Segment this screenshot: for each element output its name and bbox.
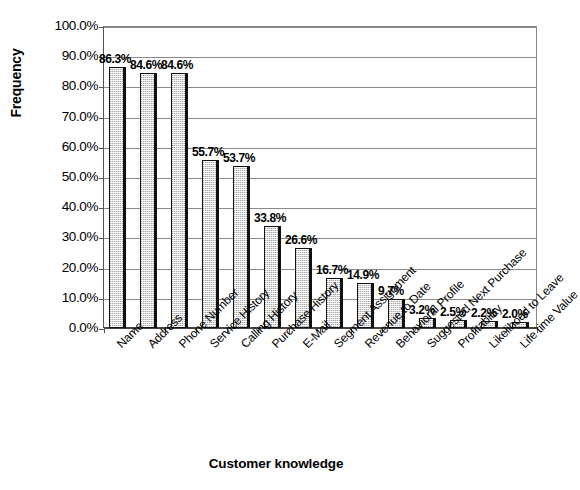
bar[interactable] bbox=[140, 73, 157, 328]
bar-value-label: 9.7% bbox=[378, 285, 404, 297]
y-axis-tick-label: 50.0% bbox=[40, 170, 98, 184]
y-axis-tick-labels: 0.0%10.0%20.0%30.0%40.0%50.0%60.0%70.0%8… bbox=[38, 0, 98, 490]
y-axis-tick-label: 0.0% bbox=[40, 321, 98, 335]
bar-value-label: 2.2% bbox=[471, 307, 497, 319]
bar-value-label: 53.7% bbox=[223, 152, 255, 164]
x-axis-title: Customer knowledge bbox=[0, 456, 552, 471]
bar-value-label: 16.7% bbox=[316, 264, 348, 276]
y-axis-tick-label: 20.0% bbox=[40, 261, 98, 275]
y-axis-tick-label: 90.0% bbox=[40, 49, 98, 63]
bar-slot bbox=[135, 27, 166, 328]
bar-value-label: 14.9% bbox=[347, 269, 379, 281]
y-axis-title: Frequency bbox=[8, 18, 24, 148]
bar-slot bbox=[104, 27, 135, 328]
bar-slot bbox=[228, 27, 259, 328]
bar-value-label: 84.6% bbox=[161, 59, 193, 71]
y-axis-tick-label: 30.0% bbox=[40, 230, 98, 244]
bar-value-label: 2.0% bbox=[502, 308, 528, 320]
bar-value-label: 55.7% bbox=[192, 146, 224, 158]
bar-slot bbox=[352, 27, 383, 328]
bar-slot bbox=[197, 27, 228, 328]
bar[interactable] bbox=[109, 67, 126, 328]
bar-value-label: 26.6% bbox=[285, 234, 317, 246]
bar-value-label: 84.6% bbox=[130, 59, 162, 71]
y-axis-tick-label: 10.0% bbox=[40, 291, 98, 305]
bar[interactable] bbox=[171, 73, 188, 328]
x-axis-tickmark bbox=[104, 328, 105, 333]
bar-slot bbox=[166, 27, 197, 328]
y-axis-tick-label: 80.0% bbox=[40, 79, 98, 93]
bar-slot bbox=[507, 27, 538, 328]
bar-value-label: 86.3% bbox=[99, 53, 131, 65]
bar-value-label: 2.5% bbox=[440, 306, 466, 318]
y-axis-tick-label: 100.0% bbox=[40, 19, 98, 33]
bar-slot bbox=[259, 27, 290, 328]
y-axis-tick-label: 70.0% bbox=[40, 110, 98, 124]
bar-value-label: 3.2% bbox=[409, 304, 435, 316]
y-axis-tick-label: 60.0% bbox=[40, 140, 98, 154]
y-axis-tick-label: 40.0% bbox=[40, 200, 98, 214]
bar-slot bbox=[290, 27, 321, 328]
bar-value-label: 33.8% bbox=[254, 212, 286, 224]
